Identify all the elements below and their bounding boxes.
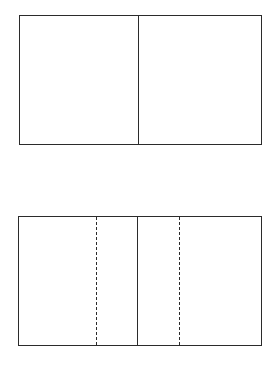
top-divider-line [138, 15, 139, 145]
depletion-left-boundary [96, 217, 97, 345]
top-junction-box [19, 15, 262, 145]
bottom-junction-line [137, 216, 138, 346]
bottom-junction-box [18, 216, 262, 346]
depletion-right-boundary [179, 217, 180, 345]
